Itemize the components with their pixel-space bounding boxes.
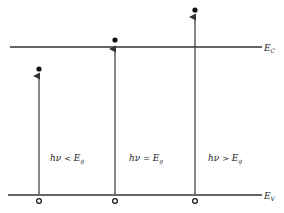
valence-band-label: EV [263, 191, 276, 202]
transition-at-gap: hν = Eg [112, 37, 163, 203]
conduction-band-label: EC [263, 43, 276, 54]
condition-label: hν > Eg [208, 153, 242, 165]
condition-label: hν < Eg [50, 153, 84, 165]
hole-circle [37, 199, 42, 204]
electron-dot [112, 37, 117, 42]
condition-label: hν = Eg [129, 153, 163, 165]
electron-dot [192, 7, 197, 12]
transition-below-gap: hν < Eg [36, 66, 84, 203]
hole-circle [193, 199, 198, 204]
transition-above-gap: hν > Eg [192, 7, 242, 203]
electron-dot [36, 66, 41, 71]
band-diagram: EC EV hν < Eg hν = Eg hν > Eg [0, 0, 284, 213]
hole-circle [113, 199, 118, 204]
